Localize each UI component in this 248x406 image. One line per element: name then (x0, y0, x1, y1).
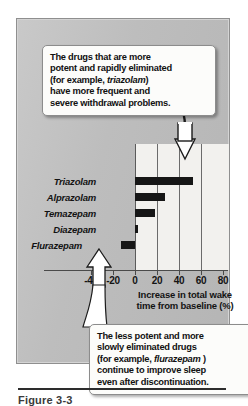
top-callout-line3: (for example, triazolam) (50, 75, 208, 86)
figure-caption: Figure 3-3 (18, 394, 218, 406)
bottom-callout[interactable]: The less potent and more slowly eliminat… (89, 324, 248, 395)
bottom-callout-line3-post: ) (201, 354, 206, 364)
bar-label-flurazepam: Flurazepam (31, 240, 82, 251)
top-callout-drug-name: triazolam (107, 75, 146, 85)
figure-container: Triazolam Alprazolam Temazepam Diazepam … (0, 0, 248, 406)
x-ticklabel-60: 60 (189, 275, 213, 286)
caption-divider (18, 388, 226, 390)
bar-diazepam (135, 225, 138, 233)
bottom-callout-line5: even after discontinuation. (97, 377, 245, 388)
x-ticklabel--40: -40 (79, 275, 103, 286)
gridline-60 (201, 144, 202, 270)
x-ticklabel--20: -20 (101, 275, 125, 286)
x-ticklabel-40: 40 (167, 275, 191, 286)
top-callout-line1: The drugs that are more (50, 52, 208, 63)
chart-panel: Triazolam Alprazolam Temazepam Diazepam … (16, 18, 230, 364)
top-callout[interactable]: The drugs that are more potent and rapid… (42, 45, 216, 116)
bar-triazolam (135, 177, 193, 185)
bottom-callout-line3: (for example, flurazepam ) (97, 354, 245, 365)
gridline-20 (157, 144, 158, 270)
top-callout-line5: severe withdrawal problems. (50, 98, 208, 109)
x-axis-title: Increase in total wake time from baselin… (129, 289, 241, 311)
top-callout-line3-post: ) (146, 75, 149, 85)
bottom-callout-line2: slowly eliminated drugs (97, 342, 245, 353)
x-ticklabel-80: 80 (211, 275, 235, 286)
bar-label-temazepam: Temazepam (44, 208, 96, 219)
top-callout-line3-pre: (for example, (50, 75, 107, 85)
plot-area (135, 144, 229, 270)
bar-temazepam (135, 209, 155, 217)
x-axis-title-line2: time from baseline (%) (137, 300, 234, 311)
bar-alprazolam (135, 193, 165, 201)
bar-label-triazolam: Triazolam (54, 176, 96, 187)
top-callout-line2: potent and rapidly eliminated (50, 63, 208, 74)
x-ticklabel-0: 0 (123, 275, 147, 286)
bar-flurazepam (121, 241, 135, 249)
gridline-40 (179, 144, 180, 270)
x-ticklabel-20: 20 (145, 275, 169, 286)
bottom-callout-line3-pre: (for example, (97, 354, 154, 364)
bottom-callout-line1: The less potent and more (97, 331, 245, 342)
top-callout-line4: have more frequent and (50, 86, 208, 97)
bottom-callout-drug-name: flurazepam (154, 354, 201, 364)
bar-label-diazepam: Diazepam (53, 224, 96, 235)
x-axis-title-line1: Increase in total wake (138, 289, 232, 300)
bar-label-alprazolam: Alprazolam (47, 192, 96, 203)
bottom-callout-line4: continue to improve sleep (97, 365, 245, 376)
